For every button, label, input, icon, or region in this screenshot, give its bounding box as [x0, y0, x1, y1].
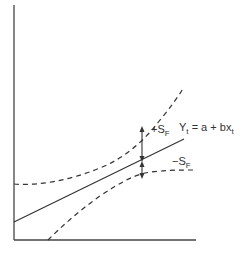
plus-sf-arrow — [140, 126, 145, 162]
equation-rest: = a + bx — [189, 121, 232, 133]
minus-sf-sub: F — [186, 161, 191, 170]
equation-x-sub: t — [231, 127, 233, 136]
plus-sf-label: +SF — [151, 124, 170, 138]
plus-sf-sub: F — [165, 129, 170, 138]
minus-sf-label: −SF — [172, 156, 191, 170]
minus-sf-arrow — [140, 161, 145, 179]
plus-sf-sign: +S — [151, 123, 165, 135]
regression-line — [14, 139, 184, 222]
lower-confidence-band — [48, 170, 194, 240]
regression-equation-label: Yt = a + bxt — [179, 122, 234, 136]
minus-sf-sign: −S — [172, 155, 186, 167]
